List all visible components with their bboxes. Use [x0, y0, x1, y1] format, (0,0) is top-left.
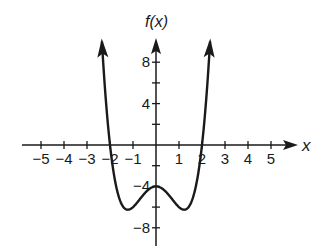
x-axis-label: x — [301, 136, 311, 155]
y-tick-label: 4 — [142, 95, 150, 112]
x-tick-label: −3 — [78, 150, 95, 167]
y-tick-label: 8 — [142, 53, 150, 70]
x-tick-label: 3 — [221, 150, 229, 167]
x-tick-label: −5 — [32, 150, 49, 167]
x-tick-label: 4 — [244, 150, 252, 167]
x-tick-label: 5 — [267, 150, 275, 167]
function-graph: −5−4−3−2−11234584−4−8 x f(x) — [0, 0, 321, 250]
x-tick-label: 1 — [175, 150, 183, 167]
x-tick-label: −4 — [55, 150, 72, 167]
graph-container: −5−4−3−2−11234584−4−8 x f(x) — [0, 0, 321, 250]
y-tick-label: −8 — [133, 219, 150, 236]
x-tick-label: −1 — [124, 150, 141, 167]
y-axis-label: f(x) — [145, 13, 168, 30]
